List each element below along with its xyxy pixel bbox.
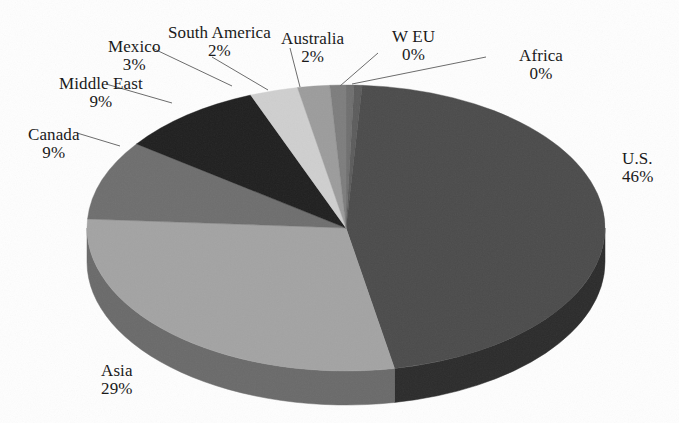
slice-label-percent-australia: 2% <box>281 48 344 66</box>
slice-label-w-eu: W EU0% <box>392 28 435 65</box>
slice-label-percent-canada: 9% <box>28 144 80 162</box>
slice-label-u-s-: U.S.46% <box>622 150 653 187</box>
slice-label-name-canada: Canada <box>28 126 80 144</box>
slice-label-percent-africa: 0% <box>519 65 563 83</box>
slice-label-name-australia: Australia <box>281 30 344 48</box>
slice-label-name-mexico: Mexico <box>108 38 161 56</box>
slice-label-name-south-america: South America <box>168 24 271 42</box>
slice-label-name-asia: Asia <box>101 362 133 380</box>
slice-label-percent-middle-east: 9% <box>59 93 143 111</box>
pie-chart-figure: Mexico3%South America2%Australia2%W EU0%… <box>0 0 679 423</box>
slice-label-percent-w-eu: 0% <box>392 46 435 64</box>
slice-label-percent-south-america: 2% <box>168 42 271 60</box>
slice-label-name-africa: Africa <box>519 47 563 65</box>
slice-label-middle-east: Middle East9% <box>59 75 143 112</box>
slice-label-africa: Africa0% <box>519 47 563 84</box>
leader-line-w-eu <box>340 53 378 86</box>
slice-label-south-america: South America2% <box>168 24 271 61</box>
slice-label-percent-mexico: 3% <box>108 56 161 74</box>
slice-label-percent-asia: 29% <box>101 380 133 398</box>
slice-label-percent-u-s-: 46% <box>622 168 653 186</box>
leader-line-south-america <box>212 57 268 90</box>
pie-top-faces <box>87 85 605 371</box>
slice-label-asia: Asia29% <box>101 362 133 399</box>
slice-label-mexico: Mexico3% <box>108 38 161 75</box>
slice-label-canada: Canada9% <box>28 126 80 163</box>
slice-label-name-u-s-: U.S. <box>622 150 653 168</box>
leader-line-canada <box>77 133 120 146</box>
slice-label-australia: Australia2% <box>281 30 344 67</box>
slice-label-name-w-eu: W EU <box>392 28 435 46</box>
slice-label-name-middle-east: Middle East <box>59 75 143 93</box>
pie-slice-asia[interactable] <box>87 219 395 371</box>
